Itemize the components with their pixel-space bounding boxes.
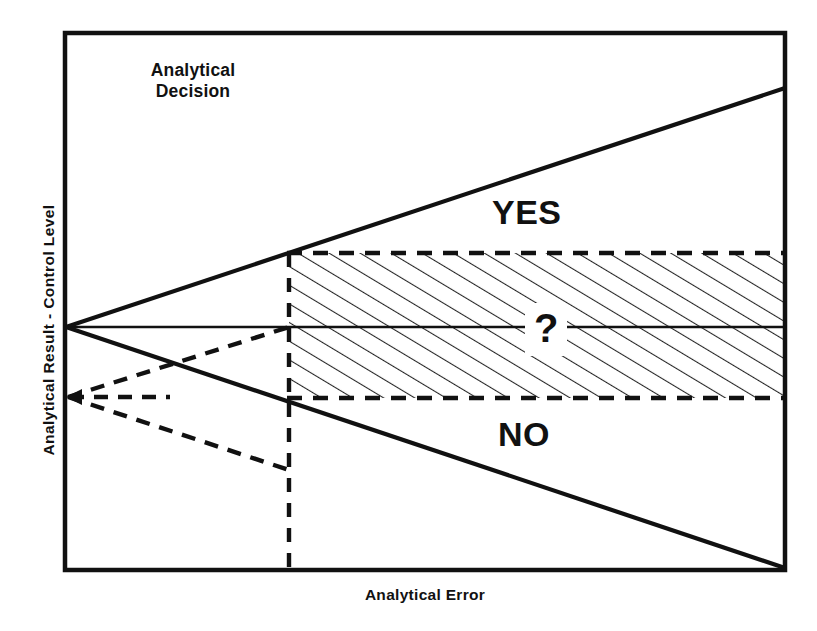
panel-title-line-1: Analytical: [151, 60, 236, 80]
panel-title-line-2: Decision: [156, 81, 231, 101]
panel-title: AnalyticalDecision: [108, 60, 278, 101]
x-axis-label: Analytical Error: [325, 586, 525, 604]
analytical-decision-chart: AnalyticalDecision YES ? NO Analytical R…: [0, 0, 817, 631]
region-label-unknown: ?: [525, 303, 567, 356]
region-label-yes: YES: [492, 192, 562, 232]
region-label-no: NO: [498, 414, 550, 454]
y-axis-label: Analytical Result - Control Level: [40, 180, 58, 480]
